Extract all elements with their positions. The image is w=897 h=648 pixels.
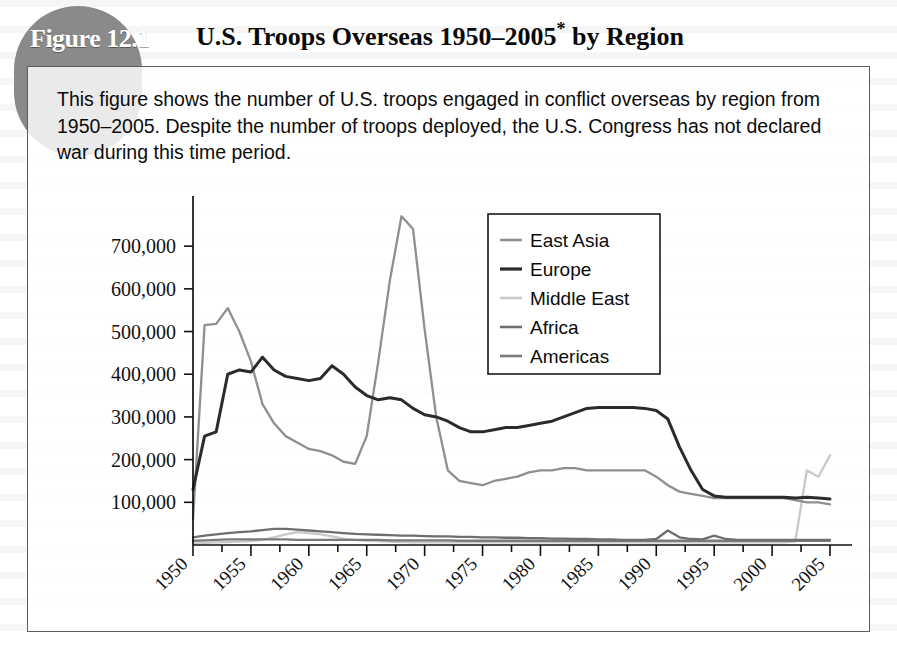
x-tick-label-group: 1975 <box>440 553 482 595</box>
x-tick-label-group: 1950 <box>150 553 192 595</box>
x-tick-label: 1975 <box>440 553 482 595</box>
series-line-middle-east <box>193 455 830 543</box>
y-tick-label: 300,000 <box>111 406 176 428</box>
y-tick-label: 700,000 <box>111 235 176 257</box>
x-tick-label: 1970 <box>382 553 424 595</box>
x-tick-label-group: 1980 <box>498 553 540 595</box>
legend-label-africa: Africa <box>530 317 579 338</box>
x-tick-label-group: 1960 <box>266 553 308 595</box>
x-tick-label-group: 2000 <box>729 553 771 595</box>
figure-12-1: Figure 12.1 U.S. Troops Overseas 1950–20… <box>0 0 897 648</box>
y-tick-label: 600,000 <box>111 278 176 300</box>
legend-label-middle-east: Middle East <box>530 288 630 309</box>
x-tick-label-group: 1965 <box>324 553 366 595</box>
figure-tag-label: Figure 12.1 <box>30 24 150 54</box>
figure-title-tail: by Region <box>565 22 683 51</box>
x-tick-label-group: 1990 <box>613 553 655 595</box>
x-tick-label: 1995 <box>671 553 713 595</box>
line-chart: 100,000200,000300,000400,000500,000600,0… <box>40 190 860 620</box>
y-tick-label: 500,000 <box>111 321 176 343</box>
figure-description: This figure shows the number of U.S. tro… <box>57 86 852 166</box>
x-tick-label: 2000 <box>729 553 771 595</box>
x-tick-label-group: 1970 <box>382 553 424 595</box>
legend-label-east-asia: East Asia <box>530 230 610 251</box>
y-tick-label: 100,000 <box>111 491 176 513</box>
x-tick-label: 2005 <box>787 553 829 595</box>
x-tick-label: 1990 <box>613 553 655 595</box>
x-tick-label: 1980 <box>498 553 540 595</box>
x-tick-label-group: 1985 <box>555 553 597 595</box>
x-tick-label: 1955 <box>208 553 250 595</box>
x-tick-label: 1985 <box>555 553 597 595</box>
legend-label-europe: Europe <box>530 259 591 280</box>
x-tick-label-group: 2005 <box>787 553 829 595</box>
x-tick-label: 1950 <box>150 553 192 595</box>
y-tick-label: 200,000 <box>111 449 176 471</box>
y-tick-label: 400,000 <box>111 363 176 385</box>
chart-svg: 100,000200,000300,000400,000500,000600,0… <box>40 190 860 620</box>
x-tick-label: 1965 <box>324 553 366 595</box>
figure-title: U.S. Troops Overseas 1950–2005* by Regio… <box>196 22 684 52</box>
x-tick-label: 1960 <box>266 553 308 595</box>
x-tick-label-group: 1955 <box>208 553 250 595</box>
figure-title-main: U.S. Troops Overseas 1950–2005 <box>196 22 556 51</box>
x-tick-label-group: 1995 <box>671 553 713 595</box>
legend-label-americas: Americas <box>530 346 609 367</box>
